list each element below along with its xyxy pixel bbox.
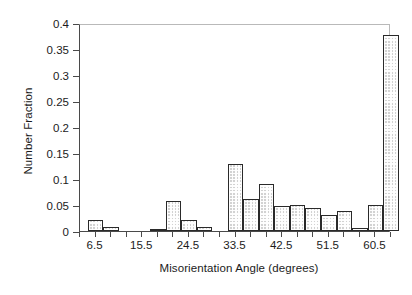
x-axis-tick <box>343 232 344 237</box>
bar <box>243 199 259 231</box>
bar-series <box>80 25 389 231</box>
x-axis-tick <box>79 232 80 237</box>
chart-figure: Number Fraction 00.050.10.150.20.250.30.… <box>0 0 412 295</box>
bar <box>352 228 368 231</box>
x-axis-title: Misorientation Angle (degrees) <box>79 262 399 274</box>
bar <box>305 208 321 231</box>
bar <box>197 227 213 231</box>
x-axis-tick <box>235 232 236 237</box>
y-axis-tick-label: 0.25 <box>25 96 69 108</box>
x-axis-tick <box>141 232 142 237</box>
x-axis-tick <box>95 232 96 237</box>
x-axis-tick <box>328 232 329 237</box>
x-axis-tick-label: 51.5 <box>317 239 339 251</box>
bar <box>181 220 197 231</box>
x-axis-tick <box>203 232 204 237</box>
y-axis-tick-label: 0.2 <box>25 122 69 134</box>
bar <box>383 35 399 231</box>
y-axis-tick-label: 0.05 <box>25 200 69 212</box>
bar <box>321 215 337 231</box>
x-axis-tick <box>172 232 173 237</box>
x-axis-tick-label: 24.5 <box>177 239 199 251</box>
bar <box>337 211 353 231</box>
plot-area <box>79 24 390 232</box>
x-axis-tick <box>157 232 158 237</box>
x-axis-tick-label: 33.5 <box>223 239 245 251</box>
y-axis-tick-label: 0.1 <box>25 174 69 186</box>
x-axis-tick <box>281 232 282 237</box>
y-axis-tick-label: 0.3 <box>25 70 69 82</box>
x-axis-tick <box>219 232 220 237</box>
x-axis-ticks <box>79 232 390 238</box>
x-axis-tick-label: 6.5 <box>87 239 103 251</box>
x-axis-tick <box>110 232 111 237</box>
y-axis-tick-label: 0.4 <box>25 18 69 30</box>
x-axis-tick <box>312 232 313 237</box>
bar <box>368 205 384 231</box>
x-axis-tick <box>374 232 375 237</box>
y-axis-tick-label: 0.15 <box>25 148 69 160</box>
x-axis-tick-label: 42.5 <box>270 239 292 251</box>
x-axis-tick <box>126 232 127 237</box>
bar <box>103 227 119 231</box>
x-axis-tick <box>250 232 251 237</box>
x-axis-tick <box>359 232 360 237</box>
bar <box>290 205 306 231</box>
x-axis-tick <box>297 232 298 237</box>
bar <box>166 201 182 231</box>
x-axis-tick-label: 60.5 <box>363 239 385 251</box>
bar <box>259 184 275 231</box>
x-axis-tick <box>188 232 189 237</box>
bar <box>274 206 290 231</box>
bar <box>150 229 166 231</box>
x-axis-tick <box>266 232 267 237</box>
x-axis: 6.515.524.533.542.551.560.5 <box>79 239 390 255</box>
bar <box>228 164 244 231</box>
bar <box>88 220 104 231</box>
x-axis-tick <box>390 232 391 237</box>
y-axis-tick-label: 0.35 <box>25 44 69 56</box>
x-axis-tick-label: 15.5 <box>130 239 152 251</box>
y-axis-tick-label: 0 <box>25 226 69 238</box>
